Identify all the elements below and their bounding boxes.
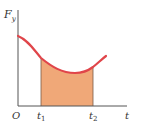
force-time-graph: Fy O t1 t2 t — [0, 0, 142, 123]
x-axis-label: t — [125, 110, 130, 121]
t1-label: t1 — [37, 110, 46, 123]
origin-label: O — [12, 110, 20, 121]
force-curve — [18, 36, 106, 73]
y-axis-label: Fy — [3, 8, 17, 23]
t2-label: t2 — [89, 110, 98, 123]
